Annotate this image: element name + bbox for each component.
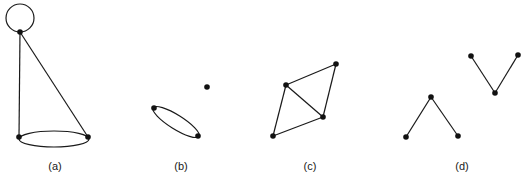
graph-diagram: (a) (b) (c) (d) xyxy=(0,0,527,187)
panel-b-vertex xyxy=(151,105,157,111)
panel-b-label: (b) xyxy=(174,160,187,172)
panel-a-loop-edge xyxy=(6,4,34,32)
panel-c-edge xyxy=(323,64,336,117)
panel-b-vertex xyxy=(195,133,201,139)
panel-d-label: (d) xyxy=(455,160,468,172)
panel-a-edge xyxy=(19,32,20,137)
panel-d-edge xyxy=(471,56,495,93)
panel-d-edge xyxy=(431,97,458,136)
panel-d-vertex xyxy=(515,52,521,58)
panel-c-vertex xyxy=(333,61,339,67)
panel-d-vertex xyxy=(455,133,461,139)
panel-c-edge xyxy=(286,85,323,117)
panel-d-vertex xyxy=(428,94,434,100)
panel-c-edge xyxy=(286,64,336,85)
panel-c-vertex xyxy=(283,82,289,88)
panel-c-edge xyxy=(273,117,323,136)
panel-b-double-edge xyxy=(149,102,202,142)
graph-drawing xyxy=(0,0,527,187)
panel-c-edge xyxy=(273,85,286,136)
panel-d-edge xyxy=(495,55,518,93)
panel-a-edge xyxy=(20,32,88,137)
panel-b-vertex xyxy=(204,84,210,90)
panel-a-double-edge xyxy=(19,131,89,147)
panel-a-label: (a) xyxy=(48,160,61,172)
panel-c-vertex xyxy=(270,133,276,139)
panel-a-vertex xyxy=(85,134,91,140)
panel-a-vertex xyxy=(17,29,23,35)
panel-c-label: (c) xyxy=(304,160,317,172)
panel-a-vertex xyxy=(16,134,22,140)
panel-d-vertex xyxy=(403,134,409,140)
panel-d-edge xyxy=(406,97,431,137)
panel-c-vertex xyxy=(320,114,326,120)
panel-d-vertex xyxy=(468,53,474,59)
panel-d-vertex xyxy=(492,90,498,96)
